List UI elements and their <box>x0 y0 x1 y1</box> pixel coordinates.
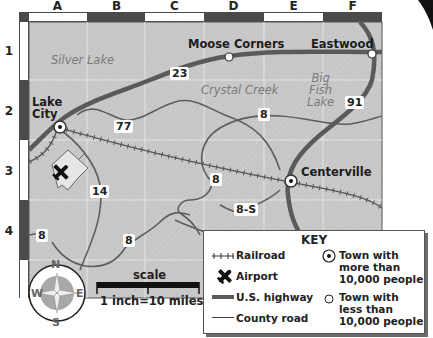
county-road-8-north-shield: 8 <box>258 108 270 121</box>
airport-legend-icon <box>216 267 234 285</box>
left-ruler <box>19 12 29 298</box>
key-title: KEY <box>204 233 424 247</box>
lake-city-label[interactable]: Lake City <box>32 96 62 120</box>
county-road-8-west-shield: 8 <box>36 229 48 242</box>
county-road-77-shield: 77 <box>114 120 133 133</box>
key-big-town-line2: more than <box>339 261 423 273</box>
key-railroad-label: Railroad <box>236 249 285 261</box>
big-town-legend-icon <box>322 249 336 263</box>
moose-corners-label[interactable]: Moose Corners <box>188 38 284 50</box>
key-airport-label: Airport <box>236 270 278 282</box>
compass-e: E <box>76 287 84 300</box>
lake-city-marker[interactable] <box>54 121 66 133</box>
eastwood-marker[interactable] <box>368 50 376 58</box>
compass-n: N <box>51 258 60 271</box>
big-fish-lake-line3: Lake <box>307 96 334 108</box>
key-big-town-line3: 10,000 people <box>339 273 423 285</box>
key-small-town-line3: 10,000 people <box>339 315 423 327</box>
railroad-legend-icon <box>212 252 234 260</box>
highway-91-shield: 91 <box>345 96 364 109</box>
key-small-town-label: Town with less than 10,000 people <box>339 291 423 327</box>
scale-text: 1 inch=10 miles <box>100 294 203 308</box>
top-ruler <box>19 12 382 22</box>
small-town-legend-icon <box>324 294 334 304</box>
highway-23-shield: 23 <box>170 67 189 80</box>
map-key: KEY Railroad Airport U.S. highway County… <box>203 230 425 334</box>
county-road-14-shield: 14 <box>90 185 109 198</box>
key-us-highway-label: U.S. highway <box>236 291 313 303</box>
key-small-town-line2: less than <box>339 303 423 315</box>
county-road-legend-icon <box>212 317 234 318</box>
centerville-label[interactable]: Centerville <box>301 166 372 178</box>
eastwood-label[interactable]: Eastwood <box>311 38 374 50</box>
big-fish-lake-label: Big Fish Lake <box>307 72 334 108</box>
page-curl-decoration <box>418 0 433 30</box>
key-county-road-label: County road <box>236 312 308 324</box>
centerville-marker[interactable] <box>285 175 297 187</box>
scale-title: scale <box>133 268 166 282</box>
key-small-town-line1: Town with <box>339 291 423 303</box>
silver-lake-label: Silver Lake <box>51 54 114 66</box>
us-highway-legend-icon <box>212 295 234 299</box>
county-road-8-south-shield: 8 <box>123 234 135 247</box>
key-big-town-label: Town with more than 10,000 people <box>339 249 423 285</box>
lake-city-label-line2: City <box>32 108 62 120</box>
compass-s: S <box>52 316 60 329</box>
crystal-creek-label: Crystal Creek <box>201 84 279 96</box>
key-big-town-line1: Town with <box>339 249 423 261</box>
county-road-8-mid-shield: 8 <box>210 173 222 186</box>
county-road-8s-shield: 8-S <box>234 203 258 216</box>
moose-corners-marker[interactable] <box>225 53 233 61</box>
compass-w: W <box>31 287 43 300</box>
